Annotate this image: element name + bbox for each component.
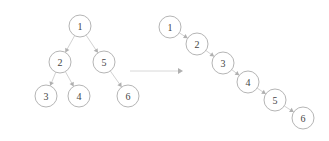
list-node-3: 3 xyxy=(212,52,234,74)
tree-edge xyxy=(65,36,74,53)
list-node-4: 4 xyxy=(237,71,259,93)
node-label: 1 xyxy=(78,21,83,32)
tree-edge xyxy=(86,35,98,53)
node-label: 5 xyxy=(273,95,278,106)
node-label: 2 xyxy=(195,39,200,50)
node-label: 5 xyxy=(102,57,107,68)
tree-edge xyxy=(49,72,55,86)
list-node-6: 6 xyxy=(292,107,314,129)
diagram-canvas: 125346 123456 xyxy=(0,0,329,141)
arrow-head-icon xyxy=(178,68,183,74)
node-label: 1 xyxy=(168,22,173,33)
list-node-5: 5 xyxy=(264,89,286,111)
node-label: 3 xyxy=(44,91,49,102)
tree-node-4: 4 xyxy=(68,85,90,107)
node-label: 6 xyxy=(301,113,306,124)
tree-edge xyxy=(110,71,121,87)
list-edge xyxy=(257,88,266,94)
node-label: 3 xyxy=(221,58,226,69)
list-node-2: 2 xyxy=(186,33,208,55)
arrow-head-icon xyxy=(235,71,240,75)
list-edge xyxy=(284,106,293,112)
tree-edge xyxy=(65,72,73,87)
transform-arrow xyxy=(130,68,183,74)
node-label: 4 xyxy=(246,77,251,88)
node-label: 4 xyxy=(77,91,82,102)
tree-node-2: 2 xyxy=(49,51,71,73)
list-edge xyxy=(232,70,239,76)
tree-node-3: 3 xyxy=(35,85,57,107)
node-label: 2 xyxy=(58,57,63,68)
tree-node-6: 6 xyxy=(117,85,139,107)
tree-node-1: 1 xyxy=(69,15,91,37)
list-edge xyxy=(179,33,187,38)
tree-node-5: 5 xyxy=(93,51,115,73)
list-edge xyxy=(206,50,214,56)
arrow-head-icon xyxy=(209,52,214,56)
arrow-head-icon xyxy=(117,82,121,87)
node-label: 6 xyxy=(126,91,131,102)
binary-tree: 125346 xyxy=(35,15,139,107)
list-node-1: 1 xyxy=(159,16,181,38)
